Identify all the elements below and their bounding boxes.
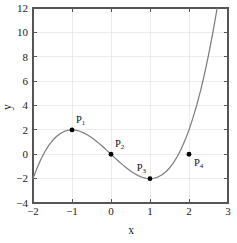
chart-figure: P1P2P3P4 −2−10123 −4−2024681012 x y [0,0,237,243]
x-tick-label: 0 [108,205,114,217]
y-tick-label: 0 [23,148,29,160]
y-axis-title: y [1,104,14,110]
data-point-marker [148,176,153,181]
chart-svg: P1P2P3P4 −2−10123 −4−2024681012 x y [0,0,237,243]
x-tick-label: −2 [27,205,39,217]
x-tick-label: 1 [147,205,153,217]
x-tick-label: 3 [225,205,231,217]
data-point-marker [70,127,75,132]
x-tick-label: −1 [66,205,78,217]
x-tick-label: 2 [186,205,192,217]
y-tick-label: −2 [16,172,28,184]
data-point-marker [109,152,114,157]
data-point-marker [187,152,192,157]
x-axis-title: x [128,224,134,236]
y-tick-label: 2 [23,124,29,136]
y-tick-label: 4 [23,99,29,111]
y-tick-label: 10 [17,26,29,38]
y-tick-label: −4 [16,197,28,209]
y-tick-label: 6 [23,75,29,87]
y-tick-label: 8 [23,51,29,63]
y-tick-label: 12 [17,2,28,14]
